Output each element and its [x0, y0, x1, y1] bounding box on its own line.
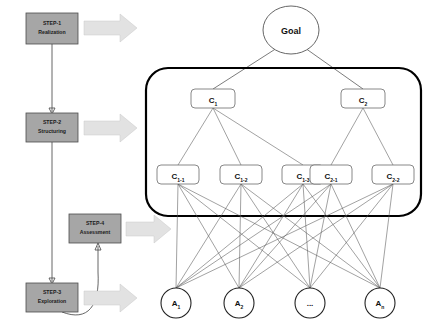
block-arrow-step3 [84, 284, 137, 312]
block-arrow-right-icon-2 [84, 114, 137, 142]
step-2-line2: Structuring [38, 128, 66, 134]
edge-c1-c11 [178, 108, 213, 165]
edge-c21-a3 [310, 184, 331, 288]
diagram-canvas: STEP-1 Realization STEP-2 Structuring ST… [0, 0, 431, 329]
ahp-diagram: STEP-1 Realization STEP-2 Structuring ST… [0, 0, 431, 329]
step-4-line1: STEP-4 [86, 220, 104, 226]
step-3-line1: STEP-3 [43, 289, 61, 295]
edge-c13-a2 [239, 184, 303, 288]
subcriterion-node-2-1[interactable]: C2-1 [310, 165, 352, 184]
block-arrow-right-icon-1 [84, 14, 137, 42]
alternative-node-ellipsis[interactable]: ... [295, 288, 325, 318]
step-4-line2: Assessment [80, 229, 111, 235]
c1-sub: 1 [215, 101, 218, 107]
step-1-line1: STEP-1 [43, 20, 61, 26]
step-box-group-4[interactable]: STEP-4 Assessment [69, 214, 121, 243]
a1-sub: 1 [178, 304, 181, 310]
step-2-line1: STEP-2 [43, 119, 61, 125]
goal-label: Goal [281, 26, 301, 36]
an-sub: n [381, 304, 384, 310]
c2-sub: 2 [365, 101, 368, 107]
c1-2-sub: 1-2 [240, 177, 247, 183]
edge-c13-a3 [303, 184, 310, 288]
step-box-group-2[interactable]: STEP-2 Structuring [26, 113, 78, 142]
alternative-node-n[interactable]: An [365, 288, 395, 318]
criterion-node-2[interactable]: C2 [341, 89, 385, 108]
edge-c2-c22 [363, 108, 393, 165]
c1-3-sub: 1-3 [302, 177, 309, 183]
c2-1-sub: 2-1 [330, 177, 337, 183]
block-arrow-step4 [126, 215, 171, 243]
a-ellipsis-base: ... [307, 299, 314, 308]
c1-1-sub: 1-1 [177, 177, 184, 183]
step-box-group-3[interactable]: STEP-3 Exploration [26, 283, 78, 312]
edge-c12-a3 [241, 184, 310, 288]
edges-criteria-to-subcriteria [178, 108, 393, 165]
a2-sub: 2 [241, 304, 244, 310]
subcriterion-node-1-2[interactable]: C1-2 [220, 165, 262, 184]
edge-c22-a4 [380, 184, 393, 288]
edge-c11-a1 [176, 184, 178, 288]
block-arrow-right-icon-3 [84, 284, 137, 312]
alternative-node-1[interactable]: A1 [161, 288, 191, 318]
step-box-group-1[interactable]: STEP-1 Realization [26, 13, 78, 44]
subcriterion-node-2-2[interactable]: C2-2 [372, 165, 414, 184]
edge-c13-a4 [303, 184, 380, 288]
step-3-line2: Exploration [38, 298, 67, 304]
criterion-node-1[interactable]: C1 [191, 89, 235, 108]
block-arrow-right-icon-4 [126, 215, 171, 243]
edge-c21-a4 [331, 184, 380, 288]
block-arrow-step2 [84, 114, 137, 142]
alternative-node-2[interactable]: A2 [224, 288, 254, 318]
edge-c22-a3 [310, 184, 393, 288]
goal-node[interactable]: Goal [263, 6, 319, 54]
edges-subcriteria-to-alternatives [176, 184, 393, 288]
subcriterion-node-1-1[interactable]: C1-1 [157, 165, 199, 184]
step-1-line2: Realization [38, 29, 65, 35]
edge-c11-a3 [178, 184, 310, 288]
c2-2-sub: 2-2 [392, 177, 399, 183]
edge-c2-c21 [331, 108, 363, 165]
edge-c1-c13 [213, 108, 303, 165]
block-arrow-step1 [84, 14, 137, 42]
process-flow-connectors [49, 44, 101, 315]
a-ellipsis-label: ... [307, 299, 314, 308]
edge-c21-a1 [176, 184, 331, 288]
